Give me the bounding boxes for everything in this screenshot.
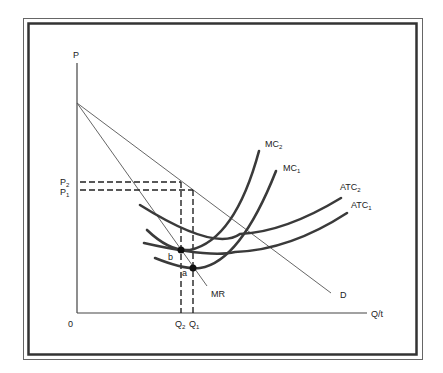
mr-label: MR bbox=[211, 289, 225, 299]
marginal-revenue-curve bbox=[77, 103, 207, 286]
y-axis-label: P bbox=[73, 50, 79, 60]
mc1-label: MC1 bbox=[283, 163, 301, 174]
q2-label: Q2 bbox=[175, 319, 186, 330]
x-axis-label: Q/t bbox=[371, 309, 384, 319]
atc1-label: ATC1 bbox=[351, 200, 372, 211]
point-a bbox=[190, 265, 197, 272]
demand-label: D bbox=[340, 290, 347, 300]
point-a-label: a bbox=[182, 268, 187, 278]
origin-label: 0 bbox=[68, 319, 73, 329]
atc2-label: ATC2 bbox=[340, 182, 361, 193]
q1-label: Q1 bbox=[189, 319, 200, 330]
point-b-label: b bbox=[168, 252, 173, 262]
demand-curve bbox=[77, 103, 331, 293]
point-b bbox=[178, 247, 185, 254]
p1-label: P1 bbox=[60, 187, 70, 198]
diagram-canvas: P Q/t 0 P2 P1 Q2 Q1 MC2 MC1 ATC2 ATC1 MR… bbox=[0, 0, 443, 373]
mc2-label: MC2 bbox=[265, 139, 283, 150]
outer-frame bbox=[24, 19, 423, 360]
